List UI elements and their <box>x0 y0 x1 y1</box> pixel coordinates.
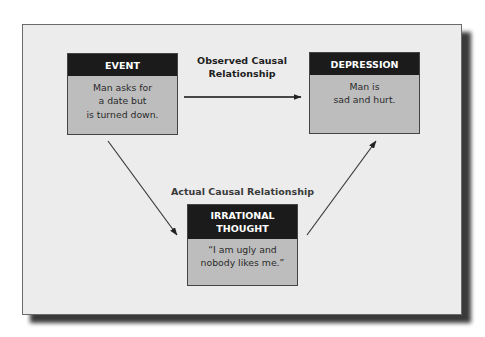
observed-causal-label: Observed Causal Relationship <box>186 54 298 80</box>
irrational-thought-box: IRRATIONAL THOUGHT “I am ugly and nobody… <box>187 204 298 286</box>
depression-body: Man is sad and hurt. <box>310 75 419 107</box>
event-header: EVENT <box>68 54 177 76</box>
irrational-thought-header: IRRATIONAL THOUGHT <box>188 205 297 239</box>
event-body: Man asks for a date but is turned down. <box>68 76 177 121</box>
irrational-thought-body: “I am ugly and nobody likes me.” <box>188 239 297 270</box>
depression-header: DEPRESSION <box>310 53 419 75</box>
event-box: EVENT Man asks for a date but is turned … <box>67 53 178 135</box>
actual-causal-label: Actual Causal Relationship <box>160 185 325 198</box>
depression-box: DEPRESSION Man is sad and hurt. <box>309 52 420 134</box>
arrows-layer <box>0 0 485 337</box>
